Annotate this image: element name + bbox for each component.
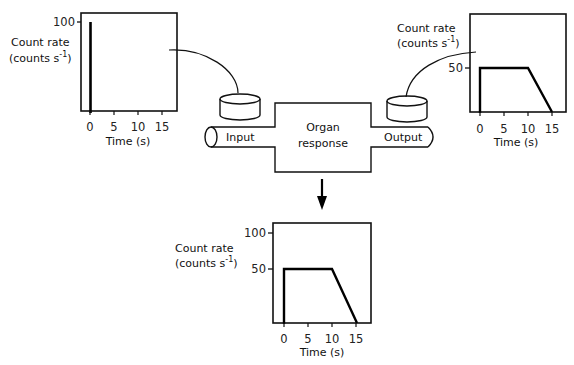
svg-text:5: 5 [500,122,507,136]
svg-text:10: 10 [521,122,536,136]
output-ylabel-line1: Count rate [397,22,456,35]
input-ylabel-line2: (counts s-1) [9,50,72,65]
svg-text:5: 5 [110,120,117,134]
down-arrow-icon [317,179,327,210]
input-reservoir-icon [220,94,260,120]
input-chart: 100 Count rate (counts s-1) 0 5 10 15 Ti… [9,13,177,148]
output-reservoir-icon [387,96,427,122]
response-ylabel-line2: (counts s-1) [175,255,238,270]
input-ylabel-line1: Count rate [11,36,70,49]
diagram-canvas: 100 Count rate (counts s-1) 0 5 10 15 Ti… [0,0,574,365]
output-xticks: 0 5 10 15 [476,112,559,136]
output-xlabel: Time (s) [493,136,539,149]
input-xlabel: Time (s) [105,135,151,148]
response-chart: 100 50 Count rate (counts s-1) 0 5 10 15… [175,223,371,359]
svg-text:15: 15 [349,332,364,346]
output-connector-line [406,52,476,97]
svg-text:0: 0 [476,122,483,136]
svg-text:5: 5 [304,332,311,346]
input-connector-line [169,50,238,93]
input-ytick-label: 100 [53,15,75,29]
svg-text:0: 0 [86,120,93,134]
svg-text:10: 10 [325,332,340,346]
output-pipe-end [428,127,433,147]
output-ylabel-line2: (counts s-1) [397,35,460,50]
output-label: Output [384,131,423,144]
organ-schematic: Input Organ response Output [205,94,433,172]
svg-text:0: 0 [280,332,287,346]
svg-text:10: 10 [131,120,146,134]
svg-text:15: 15 [545,122,560,136]
output-curve [480,68,552,113]
input-chart-frame [81,13,177,111]
response-chart-frame [273,223,371,323]
response-curve [284,269,357,324]
output-chart-frame [470,14,566,112]
response-xlabel: Time (s) [299,346,345,359]
response-xticks: 0 5 10 15 [280,323,363,346]
response-ylabel-line1: Count rate [175,242,234,255]
input-xticks: 0 5 10 15 [86,111,169,134]
response-ytick-label-100: 100 [244,226,266,240]
output-ytick-label: 50 [448,61,463,75]
organ-label-line2: response [298,137,348,150]
input-pipe-opening [205,127,217,147]
response-ytick-label-50: 50 [251,262,266,276]
output-chart: 50 Count rate (counts s-1) 0 5 10 15 Tim… [397,14,566,149]
input-label: Input [226,131,255,144]
organ-label-line1: Organ [306,121,340,134]
svg-text:15: 15 [155,120,170,134]
